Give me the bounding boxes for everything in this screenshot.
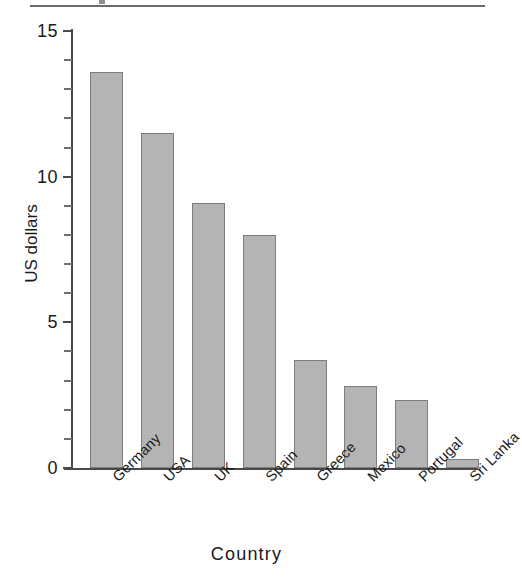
y-axis-minor-tick [64, 350, 72, 352]
y-axis-line [71, 29, 73, 470]
top-divider-rule [30, 5, 485, 7]
y-axis-minor-tick [64, 234, 72, 236]
y-tick-label: 0 [18, 459, 58, 477]
x-tick-label: Sri Lanka [467, 429, 522, 484]
y-axis-major-tick [63, 30, 72, 32]
y-tick-label: 15 [18, 22, 58, 40]
y-axis-major-tick [63, 176, 72, 178]
bar [243, 235, 276, 468]
bar [90, 72, 123, 468]
bar [294, 360, 327, 468]
bar [141, 133, 174, 468]
y-axis-minor-tick [64, 59, 72, 61]
bar [192, 203, 225, 468]
y-axis-major-tick [63, 467, 72, 469]
y-axis-minor-tick [64, 292, 72, 294]
y-axis-minor-tick [64, 438, 72, 440]
y-axis-minor-tick [64, 263, 72, 265]
x-axis-title: Country [0, 545, 493, 563]
y-axis-minor-tick [64, 147, 72, 149]
y-axis-minor-tick [64, 205, 72, 207]
y-axis-minor-tick [64, 117, 72, 119]
y-axis-minor-tick [64, 88, 72, 90]
y-axis-title: US dollars [23, 169, 40, 319]
y-axis-minor-tick [64, 380, 72, 382]
y-axis-major-tick [63, 321, 72, 323]
y-axis-minor-tick [64, 409, 72, 411]
page-edge-artifact [99, 0, 105, 4]
